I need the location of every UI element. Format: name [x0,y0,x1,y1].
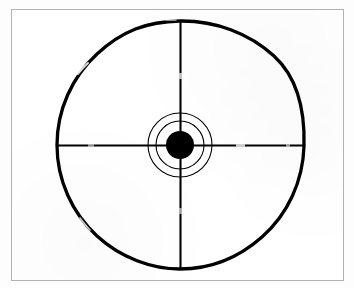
bullseye-dot-icon [166,131,194,159]
outer-ring-break-lower-left [80,218,90,230]
figure-root [0,0,354,288]
bullseye-target-graphic [0,0,354,288]
outer-ring-break-upper-left [78,63,88,74]
